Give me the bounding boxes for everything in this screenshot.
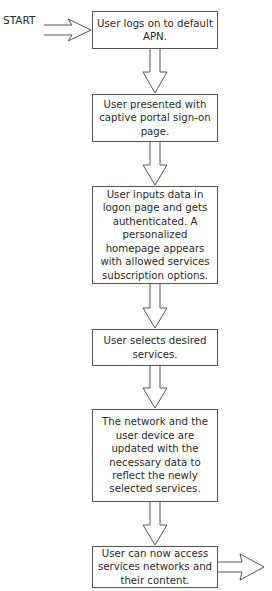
down-arrow-icon [143,142,167,185]
exit-arrow-icon [218,554,264,580]
down-arrow-icon [143,284,167,328]
down-arrow-icon [143,502,167,545]
start-label: START [3,14,35,26]
flow-step-3: User inputs data in logon page and gets … [92,186,218,284]
flow-step-4: User selects desired services. [92,329,218,366]
start-arrow-icon [44,19,91,41]
flow-step-6: User can now access services networks an… [92,546,218,588]
step-text: User presented with captive portal sign-… [96,98,214,138]
down-arrow-icon [143,366,167,408]
step-text: The network and the user device are upda… [96,415,214,495]
flow-step-5: The network and the user device are upda… [92,409,218,502]
step-text: User can now access services networks an… [96,547,214,587]
step-text: User selects desired services. [96,334,214,361]
down-arrow-icon [143,49,167,93]
flow-step-1: User logs on to default APN. [92,11,218,49]
flow-arrows [0,0,272,591]
flow-step-2: User presented with captive portal sign-… [92,94,218,142]
step-text: User logs on to default APN. [96,17,214,44]
step-text: User inputs data in logon page and gets … [96,188,214,282]
